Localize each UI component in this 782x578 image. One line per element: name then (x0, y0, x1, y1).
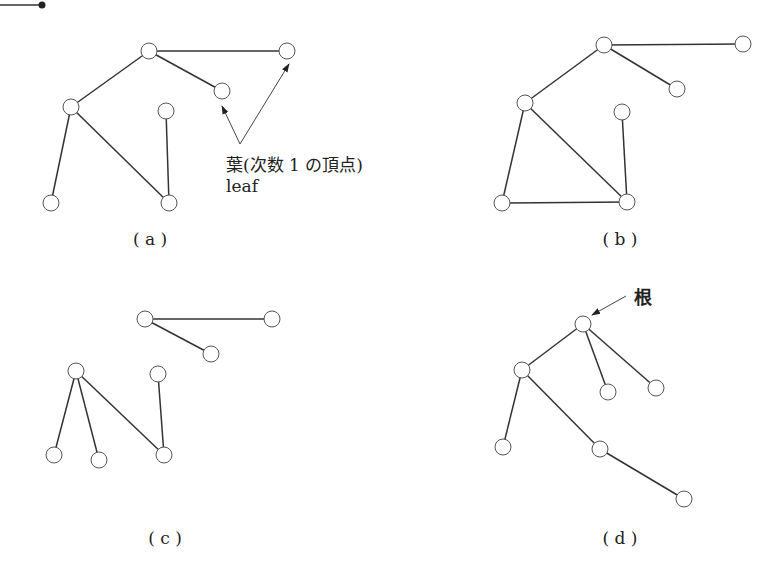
vertex (91, 452, 107, 468)
vertex (214, 83, 230, 99)
panel-caption: ( b ) (603, 229, 638, 249)
vertex (648, 380, 664, 396)
vertex (264, 311, 280, 327)
panel-caption: ( c ) (148, 528, 182, 548)
vertex (600, 384, 616, 400)
vertex (596, 37, 612, 53)
panel-caption: ( d ) (603, 528, 638, 548)
root-label: 根 (634, 287, 652, 308)
edge (600, 449, 684, 499)
vertex (619, 194, 635, 210)
vertex (161, 195, 177, 211)
vertex (156, 447, 172, 463)
panel-a-graph: ( a )葉(次数 1 の頂点)leaf (43, 43, 363, 249)
leaf-label-jp: 葉(次数 1 の頂点) (226, 155, 363, 175)
vertex (494, 195, 510, 211)
edge (71, 107, 169, 203)
vertex (46, 447, 62, 463)
vertex (158, 103, 174, 119)
vertex (735, 36, 751, 52)
edge (522, 324, 583, 370)
panel-b-graph: ( b ) (494, 36, 751, 249)
vertex (68, 363, 84, 379)
vertex (669, 81, 685, 97)
vertex (592, 441, 608, 457)
vertex (63, 99, 79, 115)
edge (158, 374, 164, 455)
edge (76, 371, 164, 455)
edge (502, 103, 525, 203)
edge (149, 51, 222, 91)
vertex (150, 366, 166, 382)
vertex (137, 311, 153, 327)
edge (166, 111, 169, 203)
vertex (517, 95, 533, 111)
edge (622, 112, 627, 202)
edge (525, 103, 627, 202)
panel-c-forest: ( c ) (46, 311, 280, 548)
vertex (203, 346, 219, 362)
leaf-pointer-arrow (240, 64, 289, 144)
edge (604, 45, 677, 89)
corner-mark (0, 2, 46, 9)
vertex (141, 43, 157, 59)
edge (583, 324, 656, 388)
graph-tree-figure: ( a )葉(次数 1 の頂点)leaf ( b ) ( c ) ( d )根 (0, 0, 782, 578)
edge (145, 319, 211, 354)
edge (54, 371, 76, 455)
root-pointer-arrow (592, 296, 626, 315)
edge (503, 370, 522, 447)
vertex (575, 316, 591, 332)
vertex (614, 104, 630, 120)
edge (522, 370, 600, 449)
vertex (279, 43, 295, 59)
leaf-pointer-arrow (222, 106, 240, 144)
edge (71, 51, 149, 107)
edge (51, 107, 71, 203)
edge (502, 202, 627, 203)
vertex (495, 439, 511, 455)
corner-dot (39, 2, 46, 9)
vertex (676, 491, 692, 507)
leaf-label-en: leaf (226, 176, 260, 196)
edge (525, 45, 604, 103)
panel-caption: ( a ) (133, 229, 167, 249)
panel-d-rooted-tree: ( d )根 (495, 287, 692, 548)
edge (76, 371, 99, 460)
edge (604, 44, 743, 45)
vertex (514, 362, 530, 378)
vertex (43, 195, 59, 211)
